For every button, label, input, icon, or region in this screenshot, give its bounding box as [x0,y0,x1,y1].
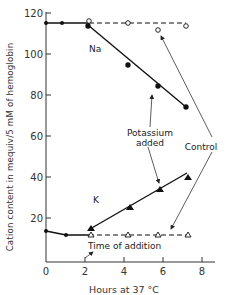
control-label: Control [185,142,218,152]
x-tick-labels: 0 2 4 6 8 [43,266,205,277]
k-series [44,173,192,237]
na-label: Na [89,44,101,54]
k-label: K [93,195,100,205]
y-tick-80: 80 [30,90,43,101]
na-series [44,19,189,110]
y-tick-labels: 120 100 80 60 40 20 [24,8,43,224]
arrow-control-na [161,36,212,137]
arrow-time-of-addition [85,252,93,258]
x-tick-0: 0 [43,266,49,277]
na-potassium-line [88,25,186,107]
chart: 120 100 80 60 40 20 0 2 4 6 8 Hours at 3… [0,0,232,295]
y-tick-100: 100 [24,49,43,60]
arrow-potassium-k [148,147,159,183]
y-tick-40: 40 [30,172,43,183]
x-tick-2: 2 [82,266,88,277]
y-tick-60: 60 [30,131,43,142]
x-tick-4: 4 [121,266,127,277]
arrow-control-k [171,152,212,229]
x-tick-6: 6 [160,266,166,277]
arrow-potassium-na [150,95,152,127]
y-axis-label: Cation content in mequiv/5 mM of hemoglo… [5,43,15,252]
x-axis-label: Hours at 37 °C [89,284,159,295]
k-potassium-line [90,173,187,229]
potassium-added-label-2: added [136,138,164,148]
y-tick-120: 120 [24,8,43,19]
time-of-addition-label: Time of addition [87,241,161,251]
potassium-added-label-1: Potassium [127,128,173,138]
x-tick-8: 8 [199,266,205,277]
y-tick-20: 20 [30,213,43,224]
